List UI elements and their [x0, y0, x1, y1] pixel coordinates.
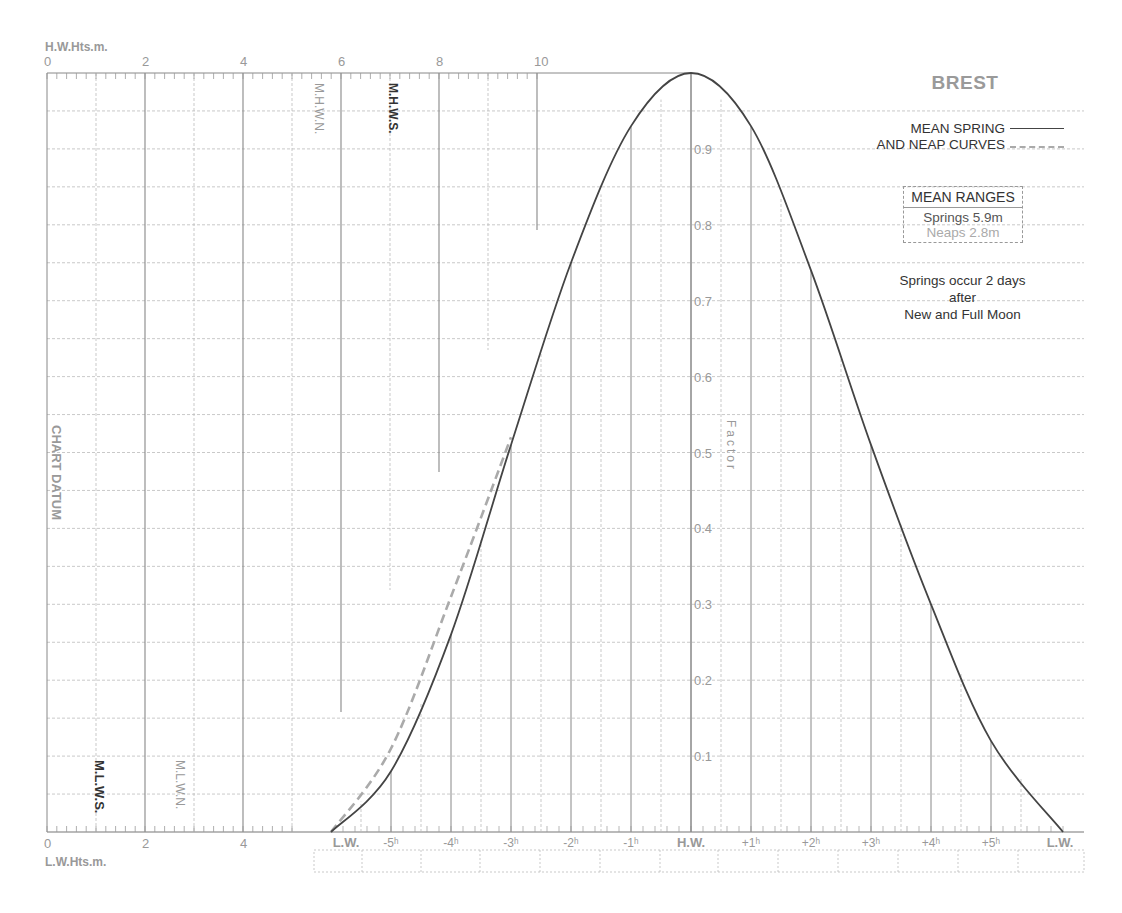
top-tick-label: 6	[338, 54, 345, 69]
bottom-axis-title: L.W.Hts.m.	[45, 855, 106, 869]
factor-tick-label: 0.2	[694, 673, 712, 688]
time-tick-label: +3ʰ	[862, 836, 881, 850]
legend-spring-swatch	[1010, 128, 1064, 129]
factor-tick-label: 0.5	[694, 446, 712, 461]
factor-tick-label: 0.4	[694, 521, 712, 536]
chart-datum-label: CHART DATUM	[49, 425, 64, 520]
factor-tick-label: 0.8	[694, 218, 712, 233]
chart-title: BREST	[910, 72, 1020, 94]
legend-neap-swatch	[1010, 146, 1064, 148]
note-line3: New and Full Moon	[880, 306, 1045, 323]
springs-range: Springs 5.9m	[904, 208, 1022, 225]
factor-axis-label: Factor	[724, 420, 738, 472]
note-line2: after	[880, 289, 1045, 306]
time-tick-label: +2ʰ	[802, 836, 821, 850]
factor-tick-label: 0.9	[694, 142, 712, 157]
springs-note: Springs occur 2 days after New and Full …	[880, 272, 1045, 323]
factor-tick-label: 0.7	[694, 294, 712, 309]
time-tick-label: -4ʰ	[443, 836, 459, 850]
axis-labels: H.W.Hts.m.0246810024L.W.Hts.m.0.10.20.30…	[44, 40, 1073, 869]
top-axis-title: H.W.Hts.m.	[45, 40, 108, 54]
factor-tick-label: 0.1	[694, 749, 712, 764]
top-tick-label: 8	[436, 54, 443, 69]
factor-tick-label: 0.3	[694, 597, 712, 612]
mhws-marker: M.H.W.S.	[386, 83, 400, 134]
time-tick-label: +5ʰ	[982, 836, 1001, 850]
time-tick-label: -2ʰ	[563, 836, 579, 850]
neap-curve	[331, 437, 511, 832]
time-tick-label: +1ʰ	[742, 836, 761, 850]
time-tick-label: L.W.	[1047, 835, 1074, 850]
bottom-tick-label: 4	[240, 836, 247, 851]
mean-ranges-box: MEAN RANGES Springs 5.9m Neaps 2.8m	[903, 186, 1023, 243]
time-entry-boxes	[314, 850, 1084, 872]
mlwn-marker: M.L.W.N.	[173, 760, 187, 809]
bottom-tick-label: 0	[44, 836, 51, 851]
top-tick-label: 0	[44, 54, 51, 69]
legend-line2: AND NEAP CURVES	[855, 137, 1005, 153]
neaps-range: Neaps 2.8m	[904, 225, 1022, 242]
top-tick-label: 10	[534, 54, 548, 69]
note-line1: Springs occur 2 days	[880, 272, 1045, 289]
factor-tick-label: 0.6	[694, 370, 712, 385]
time-tick-label: +4ʰ	[922, 836, 941, 850]
legend: MEAN SPRING AND NEAP CURVES	[855, 121, 1005, 153]
time-tick-label: L.W.	[333, 835, 360, 850]
time-tick-label: -1ʰ	[623, 836, 639, 850]
time-tick-label: H.W.	[677, 835, 705, 850]
legend-line1: MEAN SPRING	[855, 121, 1005, 137]
time-tick-label: -5ʰ	[383, 836, 399, 850]
mhwn-marker: M.H.W.N.	[312, 83, 326, 134]
top-tick-label: 4	[240, 54, 247, 69]
mlws-marker: M.L.W.S.	[92, 760, 107, 813]
bottom-tick-label: 2	[142, 836, 149, 851]
time-tick-label: -3ʰ	[503, 836, 519, 850]
top-tick-label: 2	[142, 54, 149, 69]
mean-ranges-header: MEAN RANGES	[904, 187, 1022, 208]
